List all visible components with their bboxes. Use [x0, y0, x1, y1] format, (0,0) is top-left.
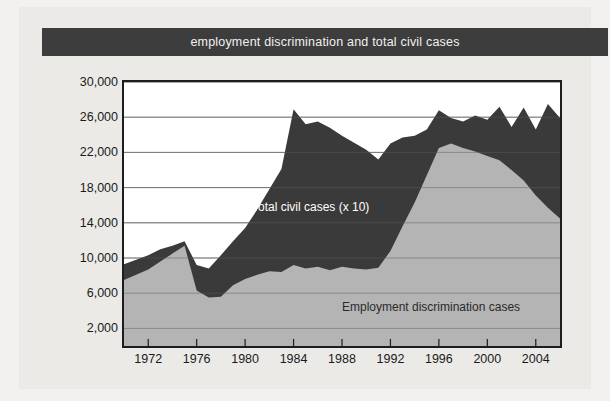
x-tick-label: 2000: [473, 352, 501, 366]
x-tick-label: 2004: [522, 352, 550, 366]
y-tick-label: 6,000: [54, 286, 118, 300]
x-tick-label: 1992: [377, 352, 405, 366]
y-tick-label: 30,000: [54, 75, 118, 89]
y-axis: 2,0006,00010,00014,00018,00022,00026,000…: [50, 80, 118, 348]
chart-title-bar: employment discrimination and total civi…: [42, 28, 608, 56]
y-tick-label: 10,000: [54, 251, 118, 265]
x-tick-label: 1988: [328, 352, 356, 366]
y-tick-label: 14,000: [54, 216, 118, 230]
x-axis: 197219761980198419881992199620002004: [122, 352, 562, 374]
x-tick-label: 1980: [231, 352, 259, 366]
x-tick-label: 1996: [425, 352, 453, 366]
x-tick-label: 1972: [134, 352, 162, 366]
x-tick-label: 1984: [280, 352, 308, 366]
area-chart-svg: [124, 82, 560, 346]
y-tick-label: 26,000: [54, 110, 118, 124]
figure-card: employment discrimination and total civi…: [20, 8, 590, 388]
x-tick-label: 1976: [183, 352, 211, 366]
plot-area: [122, 80, 562, 348]
y-tick-label: 22,000: [54, 145, 118, 159]
y-tick-label: 18,000: [54, 181, 118, 195]
chart-title: employment discrimination and total civi…: [190, 35, 459, 49]
y-tick-label: 2,000: [54, 321, 118, 335]
